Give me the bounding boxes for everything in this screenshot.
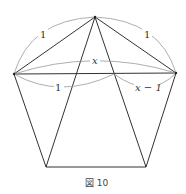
edge-left bbox=[14, 74, 46, 167]
measurement-arcs bbox=[14, 17, 176, 87]
figure-caption: 図 10 bbox=[85, 178, 109, 188]
label-upper-right: 1 bbox=[144, 29, 150, 40]
label-diagonal-x: x bbox=[92, 55, 98, 66]
label-lower-1: 1 bbox=[55, 82, 61, 93]
diagonal-top-bottomleft bbox=[46, 17, 95, 167]
label-lower-x-minus-1: x − 1 bbox=[135, 82, 162, 93]
pentagon-diagram: 1 1 x 1 x − 1 図 10 bbox=[0, 0, 186, 194]
label-upper-left: 1 bbox=[40, 29, 46, 40]
vertex-points bbox=[13, 16, 177, 75]
diagonal-horizontal bbox=[14, 73, 176, 74]
